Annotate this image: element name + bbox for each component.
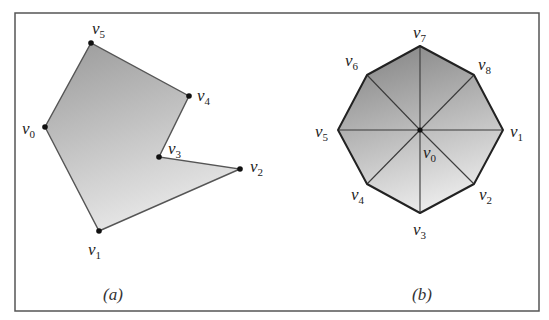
concave-polygon (45, 43, 240, 231)
vertex-label-v5: v5 (315, 122, 329, 143)
vertex-label-v0: v0 (22, 119, 36, 140)
vertex-label-v4: v4 (351, 185, 365, 206)
panel-b-octagon-fan: v1v2v3v4v5v6v7v8v0 (315, 23, 523, 241)
vertex-dot-v0 (42, 124, 48, 130)
vertex-dot-v2 (237, 166, 243, 172)
vertex-dot-v3 (156, 154, 162, 160)
center-dot-v0 (417, 127, 422, 132)
vertex-label-v3: v3 (413, 220, 427, 241)
vertex-label-v2: v2 (250, 157, 263, 178)
vertex-label-v3: v3 (168, 139, 182, 160)
vertex-label-v8: v8 (478, 55, 492, 76)
vertex-label-v4: v4 (197, 86, 211, 107)
vertex-label-v7: v7 (413, 23, 427, 44)
vertex-dot-v4 (186, 93, 192, 99)
vertex-label-v1: v1 (510, 122, 523, 143)
vertex-dot-v1 (96, 228, 102, 234)
vertex-label-v6: v6 (345, 51, 359, 72)
vertex-label-v2: v2 (479, 185, 492, 206)
vertex-label-v5: v5 (92, 19, 106, 40)
vertex-label-v1: v1 (88, 240, 101, 261)
panel-a-concave-polygon: v0v1v2v3v4v5 (22, 19, 263, 261)
polygon-figure: v0v1v2v3v4v5 v1v2v3v4v5v6v7v8v0 (a) (b) (0, 0, 549, 320)
vertex-dot-v5 (88, 40, 94, 46)
caption-a: (a) (103, 285, 123, 304)
caption-b: (b) (412, 285, 432, 304)
